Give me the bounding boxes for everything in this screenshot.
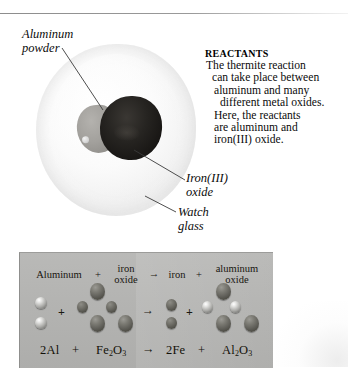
atom-iron-product: [166, 299, 177, 311]
equation-term-fe2o3: Fe2O3: [96, 343, 127, 358]
equation-arrow-icon: →: [142, 342, 155, 357]
atom-aluminum-reactant: [35, 317, 47, 329]
word-plus-operator-1: +: [92, 269, 104, 280]
label-watch-glass: Watch glass: [178, 206, 209, 233]
equation-plus-2: +: [198, 343, 205, 358]
word-aluminum: Aluminum: [26, 269, 92, 280]
atom-iron-product: [166, 317, 177, 329]
label-iron-oxide: Iron(III) oxide: [186, 172, 228, 199]
atom-iron-reactant: [90, 315, 105, 332]
equation-term-2fe: 2Fe: [166, 343, 185, 358]
reactants-heading: REACTANTS: [205, 48, 342, 59]
top-divider-rule: [0, 13, 348, 14]
watch-glass-photograph: [30, 36, 205, 226]
word-iron: iron: [162, 269, 192, 280]
atom-oxygen-product: [216, 315, 231, 332]
atom-iron-reactant: [90, 283, 105, 300]
word-equation-row: Aluminum + iron oxide → iron + aluminum …: [20, 261, 273, 291]
atom-oxygen-product: [244, 315, 259, 332]
reactants-caption-block: REACTANTS The thermite reaction can take…: [190, 48, 342, 147]
equation-term-2al: 2Al: [40, 343, 59, 358]
equation-plus-1: +: [72, 343, 79, 358]
atom-iron-reactant: [118, 315, 133, 332]
label-aluminum-powder: Aluminum powder: [22, 28, 73, 55]
reactants-line: can take place between: [212, 72, 342, 84]
word-aluminum-oxide: aluminum oxide: [204, 263, 270, 285]
model-arrow-icon: →: [142, 303, 154, 318]
model-plus-operator-2: +: [186, 305, 193, 320]
ball-model-stage: + → +: [20, 291, 273, 343]
reactants-line: different metal oxides.: [220, 97, 342, 109]
page-corner-shading: [276, 301, 348, 367]
atom-aluminum-product: [230, 301, 241, 313]
atom-oxygen-product: [216, 283, 231, 300]
reactants-body: The thermite reaction can take place bet…: [190, 60, 342, 147]
word-iron-oxide: iron oxide: [104, 263, 148, 285]
equation-term-al2o3: Al2O3: [222, 343, 253, 358]
atom-oxygen-reactant: [106, 301, 117, 313]
atom-aluminum-reactant: [35, 297, 47, 309]
word-arrow-icon: →: [146, 268, 162, 279]
model-plus-operator-1: +: [58, 305, 65, 320]
molecular-model-panel: Aluminum + iron oxide → iron + aluminum …: [19, 252, 273, 368]
atom-aluminum-product: [202, 301, 213, 313]
reactants-line: iron(III) oxide.: [214, 134, 342, 146]
atom-oxygen-reactant: [77, 301, 88, 313]
symbol-equation-row: 2Al + Fe2O3 → 2Fe + Al2O3: [20, 341, 273, 365]
